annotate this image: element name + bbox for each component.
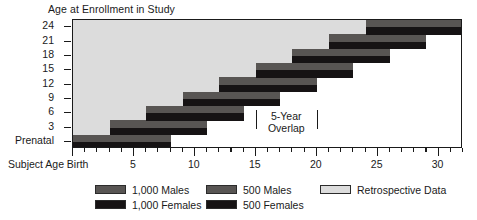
x-axis-tick-label: 25 bbox=[371, 158, 383, 170]
x-axis-minor-tick bbox=[218, 148, 219, 152]
x-axis-minor-tick bbox=[340, 148, 341, 152]
x-axis-tick-label: 5 bbox=[130, 158, 136, 170]
x-axis-minor-tick bbox=[84, 148, 85, 152]
retrospective-region bbox=[73, 77, 219, 92]
x-axis-tick-label: Birth bbox=[67, 158, 89, 170]
x-axis-title: Subject Age bbox=[8, 158, 64, 170]
x-axis-minor-tick bbox=[291, 148, 292, 152]
overlap-marker-right bbox=[317, 110, 318, 129]
x-axis-minor-tick bbox=[121, 148, 122, 152]
x-axis-minor-tick bbox=[450, 148, 451, 152]
y-axis-tick-mark bbox=[64, 98, 71, 99]
y-axis-tick-label: 21 bbox=[42, 34, 54, 46]
x-axis-minor-tick bbox=[389, 148, 390, 152]
legend-swatch bbox=[320, 185, 351, 194]
x-axis-minor-tick bbox=[401, 148, 402, 152]
y-axis-tick-mark bbox=[64, 84, 71, 85]
y-axis-tick-label: 12 bbox=[42, 77, 54, 89]
legend-swatch bbox=[206, 185, 237, 194]
cohort-bar-females bbox=[110, 128, 208, 136]
x-axis-minor-tick bbox=[96, 148, 97, 152]
retrospective-region bbox=[73, 49, 292, 64]
y-axis-tick-mark bbox=[64, 55, 71, 56]
legend-label: 500 Females bbox=[243, 199, 304, 211]
x-axis-minor-tick bbox=[170, 148, 171, 152]
y-axis-tick-mark bbox=[64, 141, 71, 142]
x-axis-minor-tick bbox=[206, 148, 207, 152]
cohort-bar-females bbox=[256, 70, 354, 78]
x-axis-tick-label: 20 bbox=[310, 158, 322, 170]
x-axis-major-tick bbox=[72, 148, 73, 156]
cohort-bar-females bbox=[329, 42, 427, 50]
x-axis-minor-tick bbox=[462, 148, 463, 152]
legend-label: 500 Males bbox=[243, 184, 291, 196]
y-axis-tick-label: 9 bbox=[48, 91, 54, 103]
legend-swatch bbox=[206, 200, 237, 209]
y-axis-tick-label: 24 bbox=[42, 19, 54, 31]
retrospective-region bbox=[73, 34, 329, 49]
legend-swatch bbox=[95, 200, 126, 209]
x-axis-minor-tick bbox=[230, 148, 231, 152]
retrospective-region bbox=[73, 63, 256, 78]
x-axis-minor-tick bbox=[352, 148, 353, 152]
x-axis-major-tick bbox=[438, 148, 439, 156]
x-axis-minor-tick bbox=[365, 148, 366, 152]
x-axis-minor-tick bbox=[304, 148, 305, 152]
chart-title: Age at Enrollment in Study bbox=[48, 3, 175, 15]
x-axis-minor-tick bbox=[328, 148, 329, 152]
y-axis-tick-mark bbox=[64, 26, 71, 27]
x-axis-minor-tick bbox=[267, 148, 268, 152]
legend-label: Retrospective Data bbox=[357, 184, 446, 196]
y-axis-tick-label: 18 bbox=[42, 48, 54, 60]
retrospective-region bbox=[73, 20, 366, 35]
y-axis-labels: 2421181512963Prenatal bbox=[0, 19, 68, 148]
y-axis-tick-label: 3 bbox=[48, 120, 54, 132]
y-axis-tick-mark bbox=[64, 112, 71, 113]
x-axis-major-tick bbox=[133, 148, 134, 156]
chart-canvas: Age at Enrollment in Study 2421181512963… bbox=[0, 0, 477, 220]
y-axis-tick-label: 15 bbox=[42, 62, 54, 74]
x-axis-minor-tick bbox=[145, 148, 146, 152]
retrospective-region bbox=[73, 106, 146, 121]
overlap-line-2: Overlap bbox=[268, 122, 305, 134]
cohort-bar-females bbox=[366, 27, 463, 35]
x-axis-minor-tick bbox=[413, 148, 414, 152]
overlap-line-1: 5-Year bbox=[271, 110, 302, 122]
y-axis-tick-mark bbox=[64, 127, 71, 128]
legend-label: 1,000 Males bbox=[132, 184, 189, 196]
x-axis-minor-tick bbox=[279, 148, 280, 152]
x-axis-major-tick bbox=[255, 148, 256, 156]
y-axis-tick-mark bbox=[64, 41, 71, 42]
cohort-bar-females bbox=[183, 99, 281, 107]
y-axis-tick-label: Prenatal bbox=[15, 134, 54, 146]
cohort-bar-females bbox=[292, 56, 390, 64]
x-axis-major-tick bbox=[194, 148, 195, 156]
x-axis-tick-label: 15 bbox=[249, 158, 261, 170]
x-axis-ticks bbox=[72, 148, 462, 157]
x-axis-minor-tick bbox=[157, 148, 158, 152]
x-axis-minor-tick bbox=[182, 148, 183, 152]
retrospective-region bbox=[73, 92, 183, 107]
overlap-annotation-label: 5-YearOverlap bbox=[268, 111, 305, 134]
x-axis-tick-labels: Birth51015202530 bbox=[0, 158, 477, 174]
y-axis-tick-label: 6 bbox=[48, 105, 54, 117]
chart-legend: 1,000 Males1,000 Females500 Males500 Fem… bbox=[0, 184, 477, 218]
x-axis-tick-label: 10 bbox=[188, 158, 200, 170]
x-axis-tick-label: 30 bbox=[432, 158, 444, 170]
x-axis-minor-tick bbox=[425, 148, 426, 152]
legend-label: 1,000 Females bbox=[132, 199, 201, 211]
x-axis-minor-tick bbox=[109, 148, 110, 152]
cohort-bar-females bbox=[146, 113, 244, 121]
x-axis-major-tick bbox=[316, 148, 317, 156]
x-axis-minor-tick bbox=[243, 148, 244, 152]
overlap-marker-left bbox=[256, 110, 257, 129]
legend-swatch bbox=[95, 185, 126, 194]
cohort-bar-females bbox=[219, 85, 317, 93]
retrospective-region bbox=[73, 120, 110, 135]
y-axis-tick-mark bbox=[64, 69, 71, 70]
x-axis-major-tick bbox=[377, 148, 378, 156]
plot-area: 5-YearOverlap bbox=[72, 19, 462, 148]
